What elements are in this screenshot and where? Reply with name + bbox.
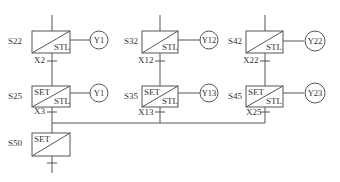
set-label: SET [34, 87, 51, 97]
stl-label: STL [54, 96, 70, 106]
step-label: S32 [124, 36, 138, 46]
step-s42: STL S42 Y22 [228, 31, 325, 53]
transition-label: X3 [34, 106, 45, 116]
set-label: SET [248, 87, 265, 97]
set-label: SET [34, 134, 51, 144]
sfc-diagram: STL S22 Y1 X2 SET STL S25 Y1 [0, 0, 340, 182]
output-label: Y22 [308, 36, 323, 46]
step-label: S45 [228, 91, 243, 101]
output-label: Y1 [94, 35, 104, 45]
transition-label: X13 [138, 107, 154, 117]
output-label: Y12 [202, 35, 217, 45]
branch-2: STL S32 Y12 X12 SET STL S35 Y13 [124, 15, 218, 123]
step-s22: STL S22 Y1 [8, 31, 108, 53]
transition-label: X22 [243, 55, 259, 65]
transition-label: X2 [34, 55, 45, 65]
stl-label: STL [266, 42, 282, 52]
step-s45: SET STL S45 Y23 [228, 83, 325, 107]
stl-label: STL [266, 96, 282, 106]
step-s25: SET STL S25 Y1 [8, 84, 108, 107]
output-label: Y13 [202, 88, 217, 98]
stl-label: STL [162, 96, 178, 106]
output-label: Y23 [308, 88, 323, 98]
stl-label: STL [162, 42, 178, 52]
step-s50: SET S50 [8, 133, 70, 156]
step-s35: SET STL S35 Y13 [124, 84, 218, 107]
set-label: SET [144, 87, 161, 97]
stl-label: STL [54, 42, 70, 52]
branch-1: STL S22 Y1 X2 SET STL S25 Y1 [8, 15, 108, 133]
output-label: Y1 [94, 88, 104, 98]
step-label: S22 [8, 36, 22, 46]
step-label: S35 [124, 91, 139, 101]
step-s32: STL S32 Y12 [124, 31, 218, 53]
step-label: S25 [8, 91, 23, 101]
step-label: S50 [8, 138, 23, 148]
transition-label: X25 [246, 107, 262, 117]
branch-3: STL S42 Y22 X22 SET STL S45 Y23 [228, 15, 325, 123]
transition-label: X12 [138, 55, 154, 65]
step-label: S42 [228, 36, 242, 46]
